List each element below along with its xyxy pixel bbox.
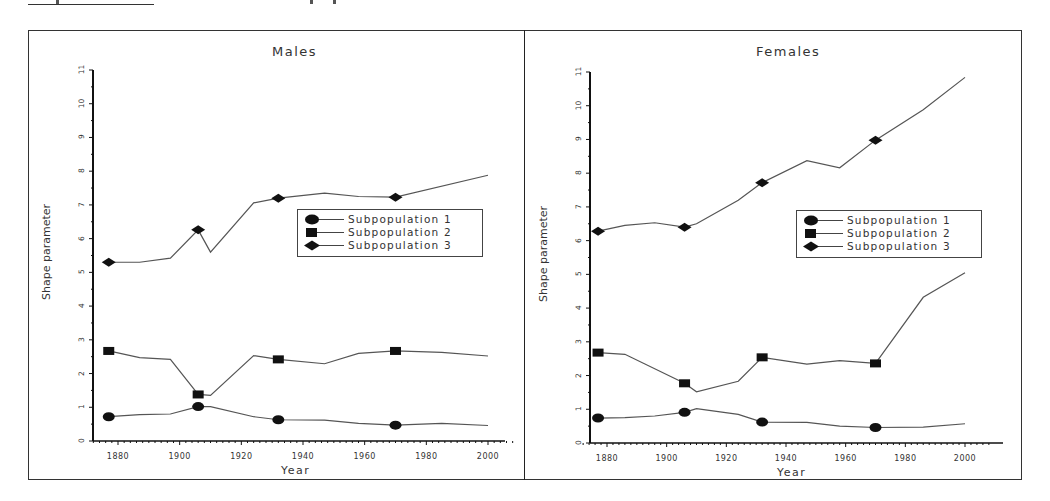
circle-marker-icon [756,418,768,427]
series-line [598,273,965,392]
square-marker-icon [273,355,284,363]
square-marker-icon [870,359,881,367]
circle-marker-icon [272,415,284,424]
square-marker-icon [757,353,768,361]
circle-marker-icon [592,414,604,423]
circle-marker-icon [679,408,691,417]
series-line [109,407,488,426]
square-marker-icon [390,347,401,355]
square-marker-icon [103,347,114,355]
series-line [109,351,488,396]
diamond-marker-icon [591,227,605,236]
diamond-marker-icon [271,194,285,203]
circle-marker-icon [390,421,402,430]
diamond-marker-icon [389,193,403,202]
diamond-marker-icon [191,225,205,234]
circle-marker-icon [192,402,204,411]
circle-marker-icon [103,412,115,421]
circle-marker-icon [870,423,882,432]
square-marker-icon [593,349,604,357]
series-line [109,175,488,262]
square-marker-icon [679,379,690,387]
diamond-marker-icon [102,258,116,267]
square-marker-icon [193,390,204,398]
series-line [598,77,965,231]
plot-area [0,0,1050,501]
diamond-marker-icon [678,223,692,232]
series-line [598,409,965,428]
